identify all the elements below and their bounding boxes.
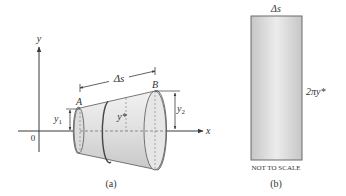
- caption-a: (a): [105, 178, 116, 190]
- origin-label: 0: [31, 133, 36, 143]
- x-axis-label: x: [205, 125, 211, 136]
- rect-width-label: Δs: [270, 3, 281, 14]
- y1-label: y1: [53, 113, 62, 126]
- arc-length-label: Δs: [113, 72, 125, 84]
- point-b-label: B: [152, 79, 158, 90]
- figure-b: Δs 2πy* NOT TO SCALE (b): [251, 3, 325, 190]
- unrolled-band-rectangle: [251, 16, 302, 160]
- not-to-scale-note: NOT TO SCALE: [251, 164, 300, 172]
- frustum-left-rim: [74, 108, 84, 153]
- surface-area-diagram: Δs y1 y2 y x 0 A B y* (a) Δs 2πy* NOT TO…: [0, 0, 346, 196]
- caption-b: (b): [270, 178, 282, 190]
- rect-height-label: 2πy*: [306, 86, 325, 97]
- y2-label: y2: [176, 103, 185, 116]
- frustum-right-rim: [144, 91, 166, 170]
- y-axis-label: y: [36, 33, 42, 44]
- mid-radius-label: y*: [116, 111, 126, 122]
- figure-a: Δs y1 y2 y x 0 A B y* (a): [18, 33, 211, 190]
- point-a-label: A: [75, 96, 83, 107]
